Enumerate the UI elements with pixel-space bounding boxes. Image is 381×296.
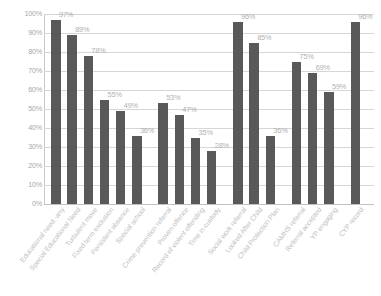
bar bbox=[308, 73, 317, 204]
bar bbox=[292, 62, 301, 205]
bar bbox=[191, 138, 200, 205]
bar-value-label: 85% bbox=[257, 34, 271, 41]
y-axis-tick-label: 50% bbox=[8, 105, 42, 112]
bar-value-label: 96% bbox=[241, 13, 255, 20]
x-axis-tick-label: CYP record bbox=[338, 206, 365, 238]
y-axis-tick-label: 60% bbox=[8, 86, 42, 93]
bar-chart: 97%89%78%55%49%36%53%47%35%28%96%85%36%7… bbox=[0, 0, 381, 296]
y-axis-tick-label: 90% bbox=[8, 29, 42, 36]
bar bbox=[51, 20, 60, 204]
gridline bbox=[44, 204, 374, 205]
bar-value-label: 89% bbox=[75, 26, 89, 33]
bar bbox=[266, 136, 275, 204]
plot-area: 97%89%78%55%49%36%53%47%35%28%96%85%36%7… bbox=[44, 14, 374, 204]
bar-value-label: 69% bbox=[316, 64, 330, 71]
bar-value-label: 49% bbox=[124, 102, 138, 109]
bar bbox=[351, 22, 360, 204]
y-axis-tick-label: 40% bbox=[8, 124, 42, 131]
bar bbox=[207, 151, 216, 204]
y-axis-tick-label: 0% bbox=[8, 200, 42, 207]
bar-value-label: 36% bbox=[273, 127, 287, 134]
bar bbox=[249, 43, 258, 205]
bar bbox=[100, 100, 109, 205]
bar bbox=[67, 35, 76, 204]
bar-value-label: 59% bbox=[332, 83, 346, 90]
bars-layer: 97%89%78%55%49%36%53%47%35%28%96%85%36%7… bbox=[44, 14, 374, 204]
bar-value-label: 75% bbox=[300, 53, 314, 60]
bar bbox=[84, 56, 93, 204]
bar-value-label: 97% bbox=[59, 11, 73, 18]
bar-value-label: 35% bbox=[199, 129, 213, 136]
bar-value-label: 78% bbox=[91, 47, 105, 54]
bar bbox=[175, 115, 184, 204]
bar-value-label: 36% bbox=[140, 127, 154, 134]
bar-value-label: 55% bbox=[108, 91, 122, 98]
y-axis-tick-label: 30% bbox=[8, 143, 42, 150]
y-axis-tick-label: 20% bbox=[8, 162, 42, 169]
bar bbox=[324, 92, 333, 204]
y-axis-tick-label: 70% bbox=[8, 67, 42, 74]
y-axis-tick-label: 100% bbox=[8, 10, 42, 17]
bar bbox=[158, 103, 167, 204]
bar bbox=[233, 22, 242, 204]
bar-value-label: 96% bbox=[358, 13, 372, 20]
y-axis-tick-label: 10% bbox=[8, 181, 42, 188]
bar-value-label: 28% bbox=[215, 142, 229, 149]
bar-value-label: 47% bbox=[182, 106, 196, 113]
bar bbox=[132, 136, 141, 204]
y-axis-tick-label: 80% bbox=[8, 48, 42, 55]
bar bbox=[116, 111, 125, 204]
x-axis-tick-labels: Educational need -anySpecial Educational… bbox=[44, 206, 374, 296]
bar-value-label: 53% bbox=[166, 94, 180, 101]
